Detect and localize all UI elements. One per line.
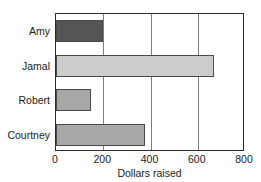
xtick-label-0: 0 xyxy=(52,154,58,165)
xtick-label-3: 600 xyxy=(188,154,206,165)
bar-robert xyxy=(56,89,91,111)
ytick-label-3: Courtney xyxy=(0,130,50,141)
plot-area xyxy=(55,13,244,151)
ytick-label-2: Robert xyxy=(0,95,50,106)
bars-layer xyxy=(56,14,243,150)
bar-courtney xyxy=(56,124,145,146)
bar-slot-courtney xyxy=(56,118,145,153)
x-axis-label: Dollars raised xyxy=(55,168,244,179)
bar-slot-robert xyxy=(56,83,91,118)
bar-slot-amy xyxy=(56,14,103,49)
ytick-label-0: Amy xyxy=(0,26,50,37)
xtick-label-4: 800 xyxy=(235,154,253,165)
bar-slot-jamal xyxy=(56,49,214,84)
bar-amy xyxy=(56,20,103,42)
ytick-label-1: Jamal xyxy=(0,61,50,72)
xtick-label-1: 200 xyxy=(93,154,111,165)
bar-jamal xyxy=(56,55,214,77)
xtick-label-2: 400 xyxy=(141,154,159,165)
bar-chart: Amy Jamal Robert Courtney 0 200 400 600 … xyxy=(0,0,261,182)
